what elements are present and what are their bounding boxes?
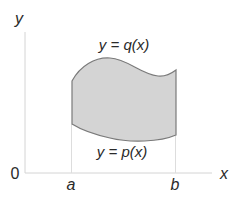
shaded-region	[72, 58, 176, 141]
y-axis-label: y	[14, 10, 24, 27]
bound-a-label: a	[67, 176, 76, 193]
bound-b-label: b	[171, 176, 180, 193]
origin-label: 0	[11, 165, 20, 182]
x-axis-label: x	[219, 165, 229, 182]
upper-curve-label: y = q(x)	[98, 36, 149, 53]
area-between-curves-diagram: y x 0 a b y = q(x) y = p(x)	[0, 0, 239, 200]
lower-curve-label: y = p(x)	[96, 143, 147, 160]
